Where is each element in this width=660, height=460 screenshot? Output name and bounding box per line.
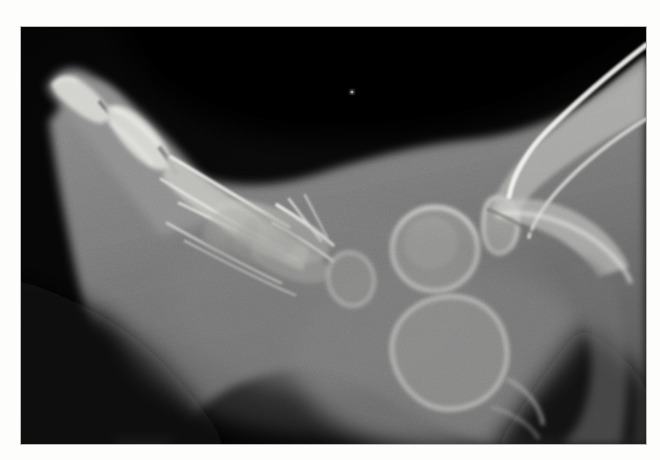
radiograph-canvas [21, 27, 646, 444]
caption-area [0, 444, 660, 460]
radiograph-image [21, 27, 646, 444]
film-grain-overlay [21, 27, 646, 444]
figure-page [0, 0, 660, 460]
